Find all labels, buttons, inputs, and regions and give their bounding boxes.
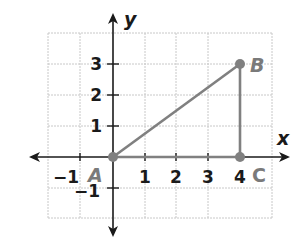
point-b	[235, 59, 245, 69]
y-axis-label: y	[124, 8, 138, 30]
x-tick-label: 4	[234, 167, 246, 187]
y-tick-label: 3	[90, 54, 102, 74]
point-a	[108, 152, 118, 162]
y-tick-label: 2	[90, 85, 102, 105]
axes	[34, 18, 284, 232]
point-c	[235, 152, 245, 162]
x-axis-label: x	[276, 127, 290, 149]
coordinate-plane: −1 1 2 3 4 3 2 1 −1 x y A B C	[0, 0, 302, 248]
x-tick-label: 3	[202, 167, 214, 187]
x-tick-label: 1	[139, 167, 151, 187]
x-tick-label: 2	[170, 167, 182, 187]
point-label-a: A	[86, 164, 103, 186]
y-tick-label: 1	[90, 116, 102, 136]
point-label-c: C	[252, 164, 266, 186]
segment-ab	[113, 64, 240, 157]
triangle-abc	[113, 64, 240, 157]
axis-arrows	[29, 13, 290, 237]
point-label-b: B	[250, 54, 264, 76]
